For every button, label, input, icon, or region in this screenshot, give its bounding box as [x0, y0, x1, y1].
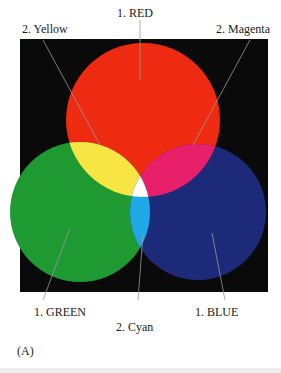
panel-label: (A) [17, 344, 34, 359]
label-blue: 1. BLUE [195, 305, 238, 320]
label-green: 1. GREEN [34, 305, 86, 320]
label-yellow: 2. Yellow [22, 22, 68, 37]
divider [0, 368, 281, 373]
label-cyan: 2. Cyan [116, 320, 153, 335]
label-magenta: 2. Magenta [216, 22, 270, 37]
label-red: 1. RED [117, 6, 153, 21]
